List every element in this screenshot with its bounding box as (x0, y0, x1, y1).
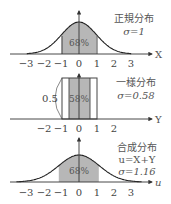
svg-text:2: 2 (111, 58, 117, 69)
panel-uniform: 58% 0.5 Y 一様分布 σ=0.58 −2 −1 0 1 2 (10, 74, 162, 134)
tick-labels: −3 −2 −1 0 1 2 3 (19, 187, 135, 198)
svg-text:2: 2 (111, 187, 117, 198)
percent-label: 58% (69, 94, 89, 104)
sigma-label: σ=1 (123, 26, 145, 37)
svg-text:2: 2 (111, 123, 117, 134)
svg-text:0: 0 (76, 58, 82, 69)
svg-text:−1: −1 (54, 58, 69, 69)
axis-label-u: u (155, 177, 161, 188)
tick-labels: −3 −2 −1 0 1 2 3 (19, 58, 135, 69)
svg-text:1: 1 (94, 187, 100, 198)
percent-label: 68% (69, 166, 89, 176)
panel-title: 合成分布 (117, 141, 157, 153)
svg-text:0: 0 (76, 187, 82, 198)
panel-sum: 68% u 合成分布 u=X+Y σ=1.16 −3 −2 −1 0 1 2 3 (10, 138, 161, 198)
svg-text:3: 3 (128, 58, 134, 69)
svg-text:0: 0 (76, 123, 82, 134)
sigma-label: σ=1.16 (118, 166, 156, 177)
svg-text:−3: −3 (19, 58, 34, 69)
axis-label-y: Y (154, 114, 162, 125)
panel-normal: 68% X 正規分布 σ=1 −3 −2 −1 0 1 2 3 (10, 11, 163, 69)
sigma-label: σ=0.58 (117, 90, 154, 101)
percent-label: 68% (69, 38, 89, 48)
tick-labels: −2 −1 0 1 2 (37, 123, 118, 134)
panel-title: 一様分布 (116, 76, 156, 88)
svg-text:−3: −3 (19, 187, 34, 198)
svg-text:3: 3 (128, 187, 134, 198)
panel-title: 正規分布 (114, 13, 154, 24)
svg-text:1: 1 (94, 58, 100, 69)
svg-text:−2: −2 (37, 187, 52, 198)
density-label: 0.5 (42, 93, 58, 104)
svg-text:−1: −1 (54, 123, 69, 134)
svg-text:1: 1 (94, 123, 100, 134)
formula-label: u=X+Y (119, 154, 156, 165)
svg-text:−1: −1 (54, 187, 69, 198)
axis-label-x: X (155, 49, 163, 60)
distribution-figure: 68% X 正規分布 σ=1 −3 −2 −1 0 1 2 3 58% 0.5 … (0, 0, 171, 204)
svg-text:−2: −2 (37, 123, 52, 134)
svg-text:−2: −2 (37, 58, 52, 69)
